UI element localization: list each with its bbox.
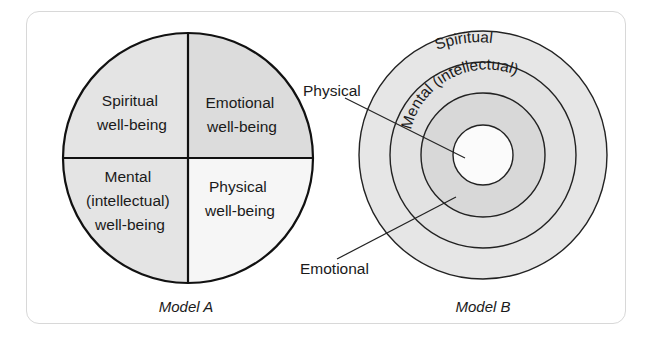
callout-label-physical: Physical [303,82,361,99]
model-a: Spiritual well-being Emotional well-bein… [63,33,313,315]
model-b: Spiritual Mental (intellectual) Physical… [300,28,607,315]
model-a-caption: Model A [159,298,213,315]
ring-physical [453,125,513,185]
quadrant-physical [188,158,313,283]
callout-label-emotional: Emotional [300,260,369,277]
model-b-caption: Model B [455,298,510,315]
wellness-models-diagram: Spiritual well-being Emotional well-bein… [0,0,654,342]
